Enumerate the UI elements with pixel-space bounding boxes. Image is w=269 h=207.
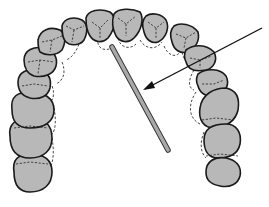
- tooth-r1: [113, 9, 142, 41]
- tooth-r6: [204, 124, 240, 158]
- arrowhead-icon: [143, 81, 155, 90]
- tooth-r7: [206, 158, 240, 187]
- dental-arch-diagram: [0, 0, 269, 207]
- tooth-l7: [14, 154, 52, 192]
- teeth-right: [113, 9, 241, 186]
- tooth-r1b: [143, 14, 168, 43]
- tooth-l1b: [62, 18, 87, 45]
- teeth-left: [10, 10, 115, 192]
- tooth-r3: [185, 46, 216, 71]
- instrument-rod: [112, 47, 168, 150]
